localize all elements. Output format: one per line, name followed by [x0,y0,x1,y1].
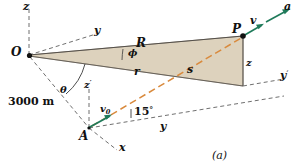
label-initial-velocity-subscript: 0 [106,108,111,116]
angle-arc-theta [66,64,85,94]
label-range-R: R [136,37,146,49]
x-axis-launch-line [89,128,117,150]
label-angle-theta: θ [60,85,67,95]
figure-caption: (a) [212,150,227,161]
label-y-launch: y [160,121,166,132]
label-x-launch: x [119,142,126,153]
label-arc-s: s [187,64,193,75]
label-angle-15-value: 15 [134,105,149,118]
label-radial-r: r [134,66,140,77]
point-marker-P [240,33,246,39]
label-angle-15deg: 15° [134,106,153,117]
label-z-launch: z′ [84,79,92,90]
label-point-O: O [11,46,21,58]
label-point-P: P [232,23,241,35]
label-z-origin: z [23,1,29,12]
label-y-origin: y [94,25,100,36]
label-distance-3000m: 3000 m [8,96,54,107]
label-y-target: y′ [280,70,288,81]
y-axis-launch-line [89,96,284,128]
label-z-launch-prime: ′ [90,78,92,87]
label-initial-velocity: v0 [100,104,110,115]
label-point-A: A [79,130,88,142]
label-y-target-prime: ′ [286,69,288,78]
label-height-z: z [246,58,252,68]
label-angle-15-unit: ° [149,105,153,114]
physics-figure: z y O ϕ θ R r s P v a z y′ 3000 m z′ v0 … [0,0,298,168]
y-axis-target-line [243,79,284,86]
label-velocity-v: v [250,15,256,26]
point-marker-O [27,53,32,58]
label-acceleration-a: a [284,1,291,12]
